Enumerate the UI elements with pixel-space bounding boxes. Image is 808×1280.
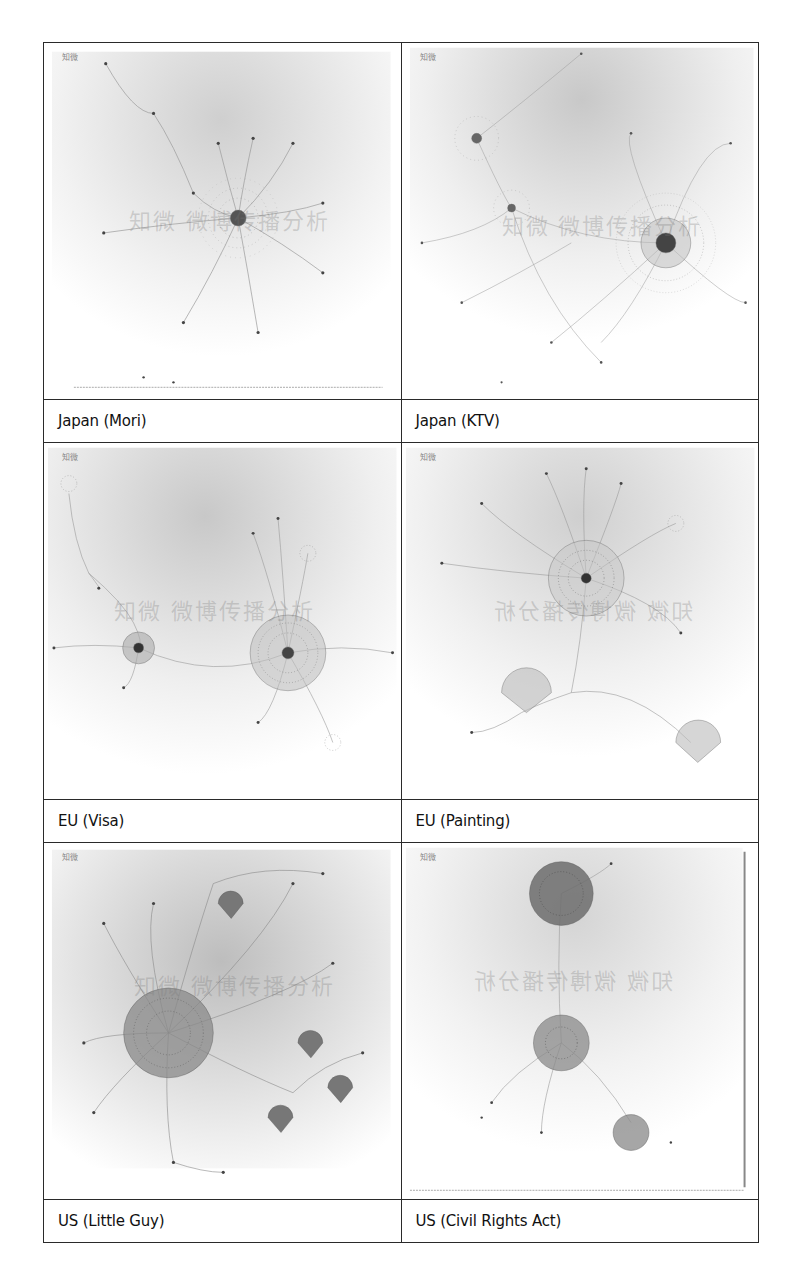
logo-zhiwei: 知微 — [420, 851, 436, 862]
panel-eu-painting: 知微 知微 微博传播分析 — [401, 443, 759, 800]
watermark: 知微 微博传播分析 — [134, 968, 335, 1000]
panel-us-little-guy: 知微 知微 微博传播分析 — [44, 843, 402, 1200]
caption-cell: US (Little Guy) — [44, 1200, 402, 1243]
watermark: 知微 微博传播分析 — [502, 208, 703, 240]
panel-label: EU (Visa) — [44, 812, 124, 830]
panel-label: EU (Painting) — [402, 812, 511, 830]
logo-zhiwei: 知微 — [420, 451, 436, 462]
watermark: 知微 微博传播分析 — [114, 593, 315, 625]
caption-cell: EU (Visa) — [44, 800, 402, 843]
logo-zhiwei: 知微 — [62, 851, 78, 862]
caption-cell: Japan (KTV) — [401, 400, 759, 443]
panel-japan-ktv: 知微 知微 微博传播分析 — [401, 43, 759, 400]
panel-label: Japan (KTV) — [402, 412, 500, 430]
logo-zhiwei: 知微 — [62, 451, 78, 462]
panel-label: US (Little Guy) — [44, 1212, 164, 1230]
caption-cell: US (Civil Rights Act) — [401, 1200, 759, 1243]
network-graph-us-civil-rights-act — [402, 843, 759, 1199]
watermark: 知微 微博传播分析 — [472, 963, 673, 995]
figure-table: 知微 知微 微博传播分析 — [43, 42, 759, 1243]
panel-label: US (Civil Rights Act) — [402, 1212, 562, 1230]
panel-eu-visa: 知微 知微 微博传播分析 — [44, 443, 402, 800]
watermark: 知微 微博传播分析 — [492, 593, 693, 625]
panel-us-civil-rights-act: 知微 知微 微博传播分析 — [401, 843, 759, 1200]
watermark: 知微 微博传播分析 — [129, 203, 330, 235]
network-graph-us-little-guy — [44, 843, 401, 1199]
caption-cell: Japan (Mori) — [44, 400, 402, 443]
logo-zhiwei: 知微 — [420, 51, 436, 62]
logo-zhiwei: 知微 — [62, 51, 78, 62]
panel-label: Japan (Mori) — [44, 412, 146, 430]
caption-cell: EU (Painting) — [401, 800, 759, 843]
panel-japan-mori: 知微 知微 微博传播分析 — [44, 43, 402, 400]
